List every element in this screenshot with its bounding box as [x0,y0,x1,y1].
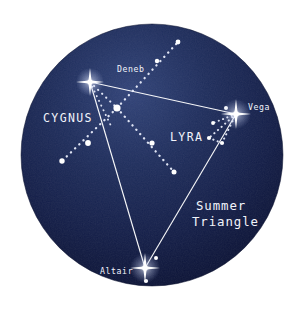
bright-star-vega [221,99,251,129]
label-summer: Summer [196,198,246,213]
sky-disc-svg: Deneb Vega Altair CYGNUS LYRA Summer Tri… [0,0,301,309]
label-altair: Altair [100,266,133,276]
label-vega: Vega [248,102,270,112]
star-sulafat [220,141,224,145]
sky-disc [21,24,283,286]
star-gienah [85,140,91,146]
bright-star-altair [130,253,160,283]
star-kappa-cygni [59,158,64,163]
star-sadr [113,104,120,111]
bright-star-deneb [76,68,104,96]
star-eta-cygni [155,59,159,63]
label-triangle: Triangle [192,214,259,229]
star-sheliak [207,136,211,140]
star-albireo [176,40,181,45]
star-zeta-cygni [172,170,177,175]
label-lyra: LYRA [170,130,203,144]
label-deneb: Deneb [117,64,145,74]
label-cygnus: CYGNUS [43,111,93,125]
star-zeta-lyrae [211,121,215,125]
star-chart: Deneb Vega Altair CYGNUS LYRA Summer Tri… [0,0,301,309]
star-delta-cygni [149,140,154,145]
